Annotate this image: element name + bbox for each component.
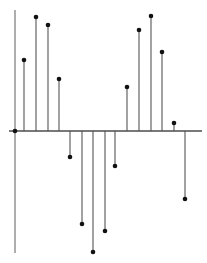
- stem-marker: [80, 222, 85, 227]
- stem-marker: [125, 85, 130, 90]
- stem-marker: [137, 28, 142, 33]
- stem-marker: [68, 155, 73, 160]
- plot-canvas: [0, 0, 207, 263]
- stem-marker: [183, 197, 188, 202]
- stem-marker: [34, 15, 39, 20]
- stem-marker: [91, 250, 96, 255]
- stem-marker: [160, 50, 165, 55]
- stem-marker: [172, 121, 177, 126]
- stem-marker: [13, 129, 18, 134]
- stem-marker: [57, 77, 62, 82]
- stem-marker: [22, 58, 27, 63]
- stem-marker: [46, 23, 51, 28]
- stem-marker: [113, 164, 118, 169]
- stem-plot-figure: [0, 0, 207, 263]
- stem-marker: [103, 229, 108, 234]
- stem-marker: [149, 14, 154, 19]
